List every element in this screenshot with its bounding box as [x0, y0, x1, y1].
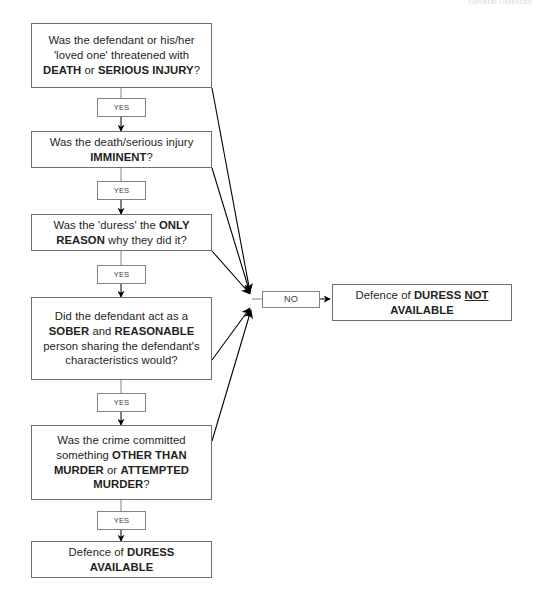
question-box-sober-reasonable[interactable]: Did the defendant act as a SOBER and REA… — [31, 297, 212, 380]
edge-q2-no — [212, 168, 250, 293]
question-box-imminent[interactable]: Was the death/serious injury IMMINENT? — [31, 131, 212, 168]
question-box-sober-reasonable-text: Did the defendant act as a SOBER and REA… — [35, 309, 207, 368]
question-box-imminent-text: Was the death/serious injury IMMINENT? — [42, 135, 202, 164]
connector-yes-5: YES — [97, 511, 146, 530]
edge-q3-no — [212, 251, 250, 294]
question-box-threat-text: Was the defendant or his/her 'loved one'… — [35, 33, 208, 77]
edge-q5-no — [212, 310, 251, 441]
outcome-box-duress-not-available-text: Defence of DURESS NOT AVAILABLE — [347, 288, 496, 317]
connector-no-label: NO — [284, 294, 298, 306]
outcome-box-duress-available-text: Defence of DURESS AVAILABLE — [61, 545, 183, 574]
question-box-other-than-murder[interactable]: Was the crime committed something OTHER … — [31, 425, 212, 500]
connector-yes-3-label: YES — [114, 270, 130, 280]
question-box-threat[interactable]: Was the defendant or his/her 'loved one'… — [31, 23, 212, 88]
running-head: General Defences — [469, 0, 532, 5]
connector-yes-3: YES — [97, 265, 146, 284]
connector-yes-2-label: YES — [114, 186, 130, 196]
question-box-only-reason[interactable]: Was the 'duress' the ONLY REASON why the… — [31, 214, 212, 251]
connector-yes-4: YES — [97, 393, 146, 412]
connector-yes-1-label: YES — [114, 103, 130, 113]
outcome-box-duress-not-available[interactable]: Defence of DURESS NOT AVAILABLE — [332, 284, 512, 321]
connector-no: NO — [262, 291, 320, 308]
connector-yes-2: YES — [97, 181, 146, 200]
connector-yes-5-label: YES — [114, 516, 130, 526]
edge-q4-no — [212, 308, 250, 360]
connector-yes-1: YES — [97, 98, 146, 117]
edge-q1-no — [212, 88, 250, 292]
connector-yes-4-label: YES — [114, 398, 130, 408]
question-box-other-than-murder-text: Was the crime committed something OTHER … — [46, 433, 197, 492]
flowchart-canvas: General Defences — [0, 0, 540, 599]
question-box-only-reason-text: Was the 'duress' the ONLY REASON why the… — [45, 218, 197, 247]
outcome-box-duress-available[interactable]: Defence of DURESS AVAILABLE — [31, 541, 212, 578]
